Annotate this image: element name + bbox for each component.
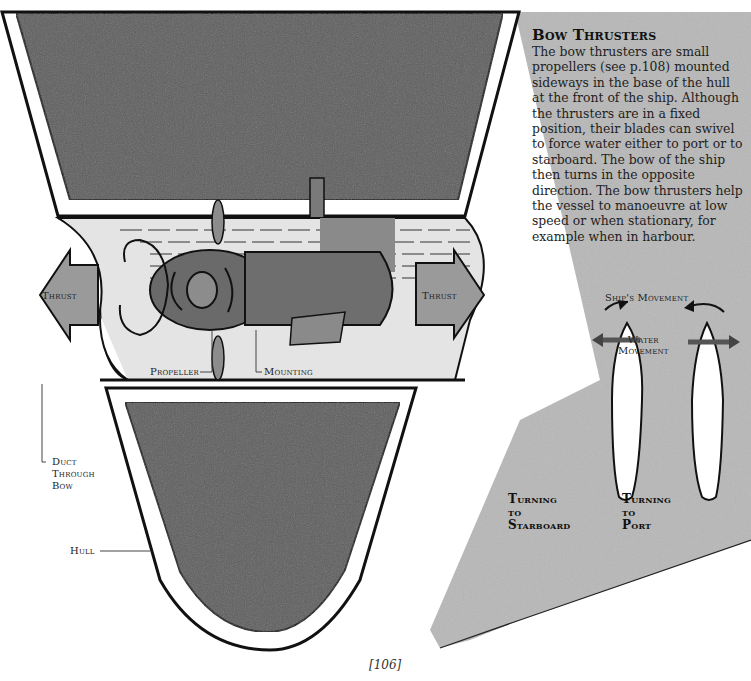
label-duct-through-bow: Duct Through Bow <box>52 456 95 492</box>
lower-hull-section <box>106 388 416 650</box>
label-turning-to-starboard: Turning to Starboard <box>508 493 571 532</box>
page-number: [106] <box>369 658 401 672</box>
label-mounting: Mounting <box>264 366 313 378</box>
label-water-movement: Water Movement <box>618 334 669 356</box>
label-hull: Hull <box>70 545 95 557</box>
article-heading: Bow Thrusters <box>532 26 656 44</box>
label-turning-to-port: Turning to Port <box>622 493 671 532</box>
article-body: The bow thrusters are small propellers (… <box>532 44 746 244</box>
upper-hull-section <box>2 12 519 248</box>
label-thrust-left: Thrust <box>42 290 77 302</box>
label-ships-movement: Ship's Movement <box>605 292 688 304</box>
label-thrust-right: Thrust <box>422 290 457 302</box>
label-propeller: Propeller <box>150 366 199 378</box>
